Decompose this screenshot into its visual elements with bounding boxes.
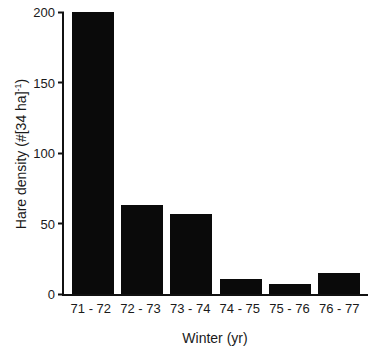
y-tick-label: 150 [33,76,55,89]
y-tick-label: 200 [33,6,55,19]
x-tick-label: 71 - 72 [66,301,116,316]
y-tick: 50 [41,217,64,230]
bar-slot [315,12,364,294]
bar-slot [167,12,216,294]
bar-slot [216,12,265,294]
x-tick-label: 76 - 77 [314,301,364,316]
hare-density-bar-chart: Hare density (#[34 ha]-1) 050100150200 7… [0,0,381,354]
bar-slot [265,12,314,294]
y-tick-label: 50 [41,217,55,230]
x-axis-title: Winter (yr) [62,330,368,346]
y-axis-title-text: Hare density (#[34 ha]-1) [13,79,30,229]
bar-series [64,12,368,294]
y-tick-label: 0 [48,288,55,301]
bar [318,273,360,294]
y-axis-title-close: ) [13,79,29,84]
y-tick: 200 [33,6,64,19]
x-axis-labels: 71 - 7272 - 7373 - 7474 - 7575 - 7676 - … [62,301,368,316]
y-tick-label: 100 [33,147,55,160]
bar [170,214,212,294]
y-axis-title-superscript: -1 [13,83,23,91]
y-axis-title-main: Hare density (#[34 ha] [13,91,29,229]
y-tick: 150 [33,76,64,89]
bar [72,12,114,294]
y-tick: 100 [33,147,64,160]
x-tick-label: 75 - 76 [265,301,315,316]
x-tick-label: 72 - 73 [116,301,166,316]
x-tick-label: 74 - 75 [215,301,265,316]
plot-area: 050100150200 [62,12,368,296]
bar-slot [117,12,166,294]
bar [121,205,163,294]
bar [220,279,262,295]
x-tick-label: 73 - 74 [165,301,215,316]
bar [269,284,311,294]
bar-slot [68,12,117,294]
y-tick: 0 [48,288,64,301]
